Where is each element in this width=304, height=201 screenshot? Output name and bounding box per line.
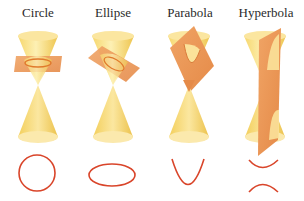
hyperbola-cone-group xyxy=(244,28,286,156)
hyperbola-upper-branch xyxy=(249,160,278,168)
circle-cone-group xyxy=(14,31,62,143)
curves-row xyxy=(19,155,278,192)
conic-sections-diagram xyxy=(0,0,304,201)
upper-cone-rim xyxy=(92,31,134,41)
ellipse-cone-group xyxy=(88,31,140,143)
hyperbola-lower-branch xyxy=(249,185,278,193)
circle-curve xyxy=(19,155,55,191)
parabola-cone-group xyxy=(168,26,214,143)
ellipse-curve xyxy=(89,164,135,186)
upper-cone-rim xyxy=(18,31,58,41)
parabola-curve xyxy=(172,159,204,185)
